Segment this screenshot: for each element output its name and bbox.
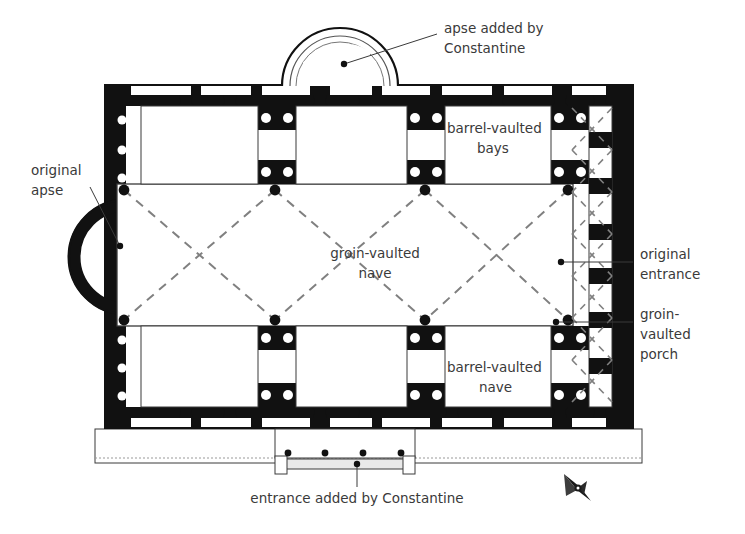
apse-added-by-constantine xyxy=(282,28,398,86)
label-groin-porch-line3: porch xyxy=(640,346,678,362)
compass-north-arrow-icon xyxy=(564,474,591,501)
label-original-apse-line2: apse xyxy=(31,182,63,198)
label-groin-porch-line2: vaulted xyxy=(640,326,691,342)
top-wall-niches xyxy=(131,86,606,95)
label-original-entrance-line2: entrance xyxy=(640,266,700,282)
floor-plan-diagram: apse added by Constantine original apse … xyxy=(0,0,745,534)
label-barrel-bays-line2: bays xyxy=(477,140,509,156)
label-original-apse-line1: original xyxy=(31,162,81,178)
label-groin-nave-line2: nave xyxy=(358,265,391,281)
label-barrel-nave-line2: nave xyxy=(479,379,512,395)
bottom-wall-niches xyxy=(131,418,606,427)
label-apse-added-line1: apse added by xyxy=(444,20,544,36)
label-apse-added-line2: Constantine xyxy=(444,40,525,56)
label-entrance-added: entrance added by Constantine xyxy=(250,490,463,506)
label-groin-porch-line1: groin- xyxy=(640,306,679,322)
label-groin-nave-line1: groin-vaulted xyxy=(330,245,420,261)
entrance-added-by-constantine xyxy=(275,429,415,474)
label-barrel-bays-line1: barrel-vaulted xyxy=(447,120,542,136)
label-barrel-nave-line1: barrel-vaulted xyxy=(447,359,542,375)
label-original-entrance-line1: original xyxy=(640,246,690,262)
groin-vaulted-porch xyxy=(572,106,612,407)
